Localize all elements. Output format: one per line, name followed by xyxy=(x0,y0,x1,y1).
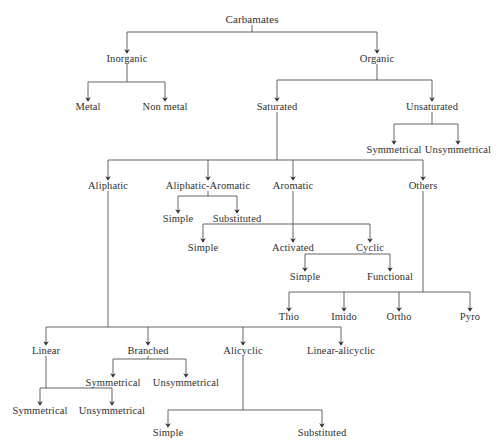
node-others: Others xyxy=(409,180,438,191)
node-alicyclic: Alicyclic xyxy=(223,345,263,356)
node-aliphatic-aromatic: Aliphatic-Aromatic xyxy=(166,180,250,191)
node-uns-unsymmetrical: Unsymmetrical xyxy=(425,144,491,155)
node-unsaturated: Unsaturated xyxy=(406,101,458,112)
node-ali-substituted: Substituted xyxy=(298,427,347,438)
node-cyc-simple: Simple xyxy=(290,271,320,282)
node-ar-simple: Simple xyxy=(188,242,218,253)
node-uns-symmetrical: Symmetrical xyxy=(367,144,422,155)
node-cyc-functional: Functional xyxy=(367,271,413,282)
node-thio: Thio xyxy=(279,311,299,322)
node-carbamates: Carbamates xyxy=(225,14,278,25)
node-lin-unsymmetrical: Unsymmetrical xyxy=(79,405,145,416)
node-linear-alicyclic: Linear-alicyclic xyxy=(307,345,375,356)
node-organic: Organic xyxy=(360,53,394,64)
node-ar-activated: Activated xyxy=(272,242,314,253)
node-non-metal: Non metal xyxy=(142,101,187,112)
carbamates-classification-diagram: CarbamatesInorganicOrganicMetalNon metal… xyxy=(0,0,503,443)
node-inorganic: Inorganic xyxy=(106,53,147,64)
node-branched: Branched xyxy=(127,345,168,356)
node-ar-cyclic: Cyclic xyxy=(356,242,384,253)
node-aromatic: Aromatic xyxy=(273,180,314,191)
node-imido: Imido xyxy=(331,311,357,322)
node-pyro: Pyro xyxy=(460,311,480,322)
node-saturated: Saturated xyxy=(257,101,298,112)
node-aa-substituted: Substituted xyxy=(213,213,262,224)
node-lin-symmetrical: Symmetrical xyxy=(13,405,68,416)
node-ali-simple: Simple xyxy=(153,427,183,438)
node-aliphatic: Aliphatic xyxy=(88,180,128,191)
node-br-symmetrical: Symmetrical xyxy=(86,377,141,388)
node-aa-simple: Simple xyxy=(163,213,193,224)
node-metal: Metal xyxy=(75,101,100,112)
node-br-unsymmetrical: Unsymmetrical xyxy=(153,377,219,388)
node-ortho: Ortho xyxy=(386,311,411,322)
node-linear: Linear xyxy=(32,345,60,356)
